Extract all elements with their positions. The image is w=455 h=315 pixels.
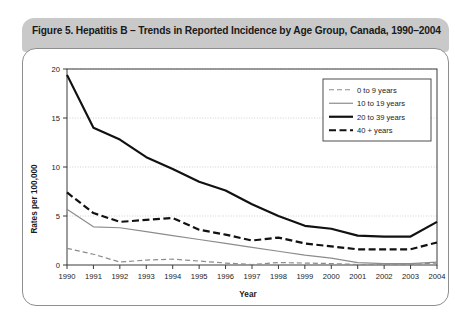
legend-label: 10 to 19 years [357,99,405,108]
x-tick-label: 1998 [270,272,287,281]
legend-label: 40 + years [357,126,393,135]
x-tick-label: 2001 [349,272,366,281]
x-tick-label: 1992 [111,272,128,281]
series-line [67,192,437,249]
legend-label: 20 to 39 years [357,113,405,122]
x-tick-label: 2002 [376,272,393,281]
series-line [67,248,437,264]
figure-card: Figure 5. Hepatitis B – Trends in Report… [8,8,447,307]
line-chart: 05101520 1990199119921993199419951996199… [23,49,450,307]
legend-label: 0 to 9 years [357,86,397,95]
x-tick-label: 1991 [85,272,102,281]
figure-title: Figure 5. Hepatitis B – Trends in Report… [32,25,442,36]
x-axis-label: Year [239,290,257,299]
plot-panel: 05101520 1990199119921993199419951996199… [22,48,449,306]
y-tick-label: 5 [56,212,60,221]
x-tick-label: 2004 [429,272,446,281]
y-tick-label: 10 [52,163,60,172]
x-tick-label: 1990 [59,272,76,281]
chart-legend: 0 to 9 years10 to 19 years20 to 39 years… [323,79,431,141]
y-tick-label: 20 [52,65,60,74]
x-axis-tick-labels: 1990199119921993199419951996199719981999… [59,272,446,281]
x-tick-label: 2003 [402,272,419,281]
y-tick-label: 0 [56,261,60,270]
x-tick-label: 2000 [323,272,340,281]
x-tick-label: 1996 [217,272,234,281]
y-axis-tick-labels: 05101520 [52,65,67,270]
y-tick-label: 15 [52,114,60,123]
y-axis-label: Rates per 100,000 [30,164,39,234]
x-tick-label: 1993 [138,272,155,281]
x-axis-ticks [67,265,437,269]
x-tick-label: 1995 [191,272,208,281]
x-tick-label: 1997 [244,272,261,281]
x-tick-label: 1999 [296,272,313,281]
x-tick-label: 1994 [164,272,181,281]
